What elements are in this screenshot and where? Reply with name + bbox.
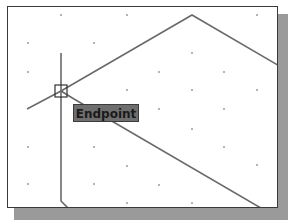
cad-drawing-viewport[interactable]	[7, 6, 278, 208]
drawing-canvas[interactable]	[8, 7, 278, 208]
drawing-lines	[27, 15, 278, 208]
osnap-tooltip: Endpoint	[73, 104, 139, 122]
